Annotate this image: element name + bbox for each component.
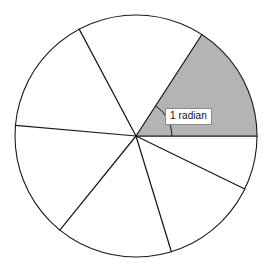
circle-sector-svg [0,0,267,272]
sector-radius-line-7 [136,136,245,189]
radian-diagram-figure: 1 radian [0,0,267,272]
sector-radius-line-5 [60,136,136,230]
sector-radius-line-6 [136,136,171,252]
sector-radius-line-3 [79,29,136,136]
sector-radius-line-4 [15,125,136,136]
angle-label: 1 radian [165,108,212,125]
